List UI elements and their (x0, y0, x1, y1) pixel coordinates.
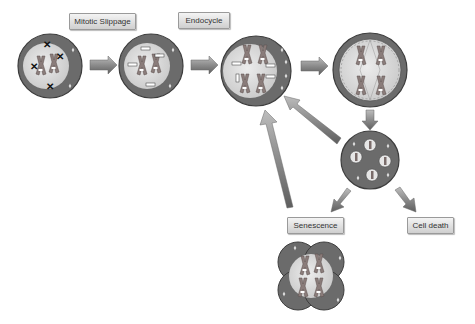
arrow-cell5-to-cell3 (284, 96, 341, 144)
diagram-canvas: ✕ ✕ ✕ ✕ (0, 0, 475, 324)
cell-6 (278, 242, 344, 310)
label-senescence: Senescence (287, 217, 344, 234)
cell-4 (333, 33, 407, 107)
label-cell-death: Cell death (407, 217, 454, 234)
arrow-cell2-to-cell3 (191, 56, 218, 74)
arrow-cell4-to-cell5 (362, 110, 378, 130)
cell-2 (119, 34, 183, 98)
svg-text:✕: ✕ (56, 51, 64, 62)
arrow-cell5-to-senescence (331, 188, 351, 212)
label-mitotic-slippage: Mitotic Slippage (69, 13, 136, 30)
svg-text:✕: ✕ (30, 61, 38, 72)
svg-text:✕: ✕ (46, 81, 54, 92)
cell-3 (221, 36, 291, 106)
arrow-cell3-to-cell4 (301, 57, 328, 75)
label-endocycle: Endocycle (178, 12, 230, 29)
arrow-senescence-to-cell3 (260, 110, 293, 208)
cell-1: ✕ ✕ ✕ ✕ (18, 34, 82, 98)
arrow-cell5-to-cell-death (395, 187, 416, 212)
cell-5 (341, 131, 399, 189)
svg-text:✕: ✕ (43, 39, 51, 50)
arrow-cell1-to-cell2 (90, 56, 117, 74)
